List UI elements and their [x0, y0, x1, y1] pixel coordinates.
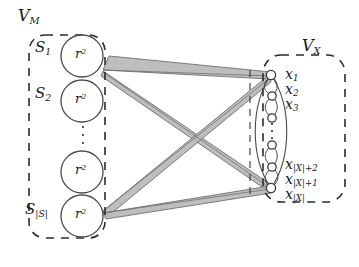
set-label-sn: S|S|: [25, 202, 48, 218]
right-node-x2[interactable]: [268, 92, 276, 100]
right-node-xn1[interactable]: [268, 163, 276, 171]
left-node-s3-exp: 2: [81, 163, 86, 172]
beam-s1-to-x-top: [103, 56, 271, 79]
left-group-label-sub: M: [30, 15, 40, 26]
beam-group: [101, 56, 271, 219]
left-node-s3-label: r2: [75, 163, 86, 176]
right-node-label-x1-base: x: [285, 66, 293, 82]
beam-s1-to-x-lower: [101, 71, 270, 191]
left-group-label: VM: [18, 8, 40, 26]
left-node-s2-label: r2: [75, 92, 86, 105]
right-node-label-xn-sub: |X|: [293, 193, 305, 203]
left-group-label-base: V: [18, 6, 30, 25]
set-label-s1: S1: [35, 40, 51, 56]
left-node-s2-exp: 2: [81, 92, 86, 101]
right-node-label-x3: x3: [285, 97, 298, 113]
left-column-ellipsis-icon: [81, 126, 85, 144]
right-node-label-x3-base: x: [285, 96, 293, 112]
right-node-label-x3-sub: 3: [293, 103, 299, 113]
left-node-s4-exp: 2: [81, 207, 86, 216]
right-group-label-base: V: [302, 36, 314, 55]
set-label-s1-sub: 1: [45, 46, 51, 57]
set-label-s2-sub: 2: [45, 92, 51, 103]
set-label-s2-base: S: [35, 84, 45, 102]
left-node-s1-label: r2: [75, 47, 86, 60]
right-node-xn[interactable]: [266, 183, 275, 192]
set-label-s1-base: S: [35, 38, 45, 56]
right-node-label-xn: x|X|: [285, 187, 305, 203]
set-label-s2: S2: [35, 86, 51, 102]
right-node-label-xn1-base: x: [285, 171, 293, 187]
right-group-label-sub: X: [314, 45, 321, 56]
right-node-x1[interactable]: [266, 70, 275, 79]
right-node-xn2[interactable]: [268, 141, 276, 149]
set-label-sn-base: S: [25, 200, 35, 218]
right-node-label-x2-base: x: [285, 81, 293, 97]
right-node-label-xn-base: x: [285, 186, 293, 202]
right-group-label: VX: [302, 38, 321, 56]
right-lens-ellipsis-icon: [270, 123, 274, 139]
set-label-sn-sub: |S|: [35, 208, 48, 219]
left-node-s1-exp: 2: [81, 47, 86, 56]
left-node-s4-label: r2: [75, 207, 86, 220]
right-node-x3[interactable]: [268, 114, 276, 122]
right-node-label-xn2-base: x: [285, 156, 293, 172]
